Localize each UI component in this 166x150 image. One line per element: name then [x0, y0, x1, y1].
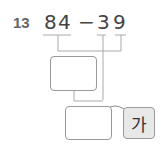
digit-tens-1: 8 — [44, 10, 57, 34]
digit-ones-2: 9 — [113, 10, 126, 34]
digit-tens-2: 3 — [97, 10, 110, 34]
answer-box-2[interactable] — [65, 106, 112, 140]
label-box-ga: 가 — [123, 107, 155, 139]
minus-sign: − — [78, 10, 95, 34]
answer-box-1[interactable] — [50, 56, 97, 91]
digit-ones-1: 4 — [58, 10, 71, 34]
question-number: 13 — [13, 14, 30, 31]
